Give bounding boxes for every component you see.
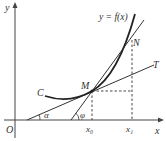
y-axis-label: y [4, 2, 10, 13]
point-n-label: N [132, 37, 141, 48]
y-axis-arrow [13, 2, 18, 8]
origin-label: O [6, 124, 13, 135]
point-m-dot [91, 90, 94, 93]
angle-alpha-label: α [44, 110, 49, 120]
function-label: y = f(x) [98, 12, 128, 23]
tangent-diagram: y x O C y = f(x) M N T α φ x₀ x₁ [0, 0, 166, 141]
angle-alpha-arc [39, 115, 40, 121]
angle-phi-arc [76, 113, 80, 120]
angle-phi-label: φ [80, 110, 85, 120]
x0-label: x₀ [85, 124, 93, 134]
x1-label: x₁ [125, 124, 133, 134]
x-axis-arrow [158, 118, 164, 123]
x-axis-label: x [154, 125, 160, 136]
tangent-label: T [153, 59, 160, 70]
curve-c [45, 14, 135, 99]
point-m-label: M [80, 80, 90, 91]
secant-line [71, 20, 144, 120]
curve-label: C [37, 87, 44, 98]
